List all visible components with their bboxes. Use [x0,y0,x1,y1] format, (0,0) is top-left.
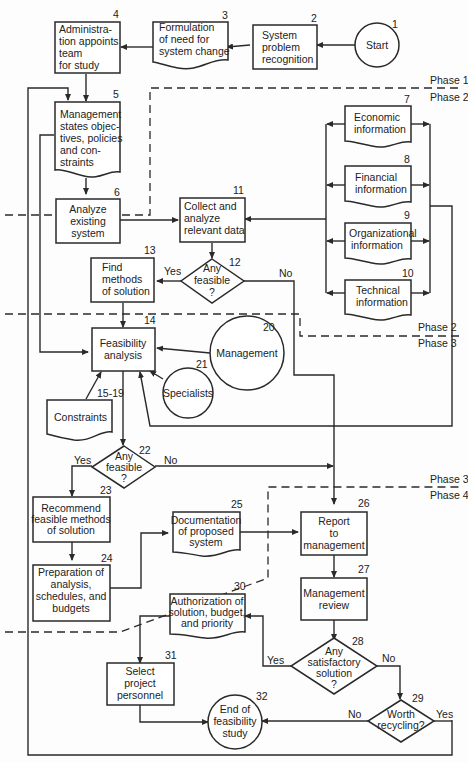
flowchart-canvas: Phase 1 Phase 2 Phase 2 Phase 3 Phase 3 … [0,0,468,763]
flowchart-svg: Phase 1 Phase 2 Phase 2 Phase 3 Phase 3 … [0,0,468,763]
node-number: 3 [222,9,228,21]
svg-text:budgets: budgets [52,602,89,614]
node-administration-appoints-team[interactable]: Administra- tion appoints team for study… [55,8,120,73]
edge-label-no: No [348,708,362,720]
svg-text:tives, policies: tives, policies [60,132,122,144]
node-number: 28 [352,635,364,647]
svg-text:Select: Select [125,665,154,677]
node-feasibility-analysis[interactable]: Feasibility analysis 14 [92,314,156,371]
phase-label: Phase 2 [430,91,468,103]
svg-text:Start: Start [366,39,388,51]
node-number: 29 [412,692,424,704]
node-documentation-proposed-system[interactable]: Documentation of proposed system 25 [171,498,243,556]
svg-text:existing: existing [70,215,106,227]
node-management-circle[interactable]: Management 20 [210,316,284,390]
svg-text:analysis: analysis [104,349,142,361]
svg-text:of need for: of need for [159,33,210,45]
svg-text:Feasibility: Feasibility [100,337,147,349]
svg-text:review: review [319,599,350,611]
edge-label-no: No [164,454,178,466]
svg-text:?: ? [209,286,215,298]
node-number: 20 [263,321,275,333]
node-authorization-of-solution[interactable]: Authorization of solution, budget, and p… [168,580,245,638]
svg-text:?: ? [121,472,127,484]
node-formulation-of-need[interactable]: Formulation of need for system change 3 [153,9,230,69]
svg-text:Management: Management [216,347,277,359]
svg-text:Collect and: Collect and [184,200,237,212]
svg-text:feasibility: feasibility [213,715,257,727]
svg-text:recognition: recognition [262,53,314,65]
edge-label-yes: Yes [267,654,284,666]
node-end-of-feasibility-study[interactable]: End of feasibility study 32 [208,690,268,749]
svg-text:study: study [222,727,248,739]
node-specialists[interactable]: Specialists 21 [163,358,213,418]
node-number: 10 [402,267,414,279]
svg-text:schedules, and: schedules, and [36,590,107,602]
svg-text:?: ? [331,678,337,690]
svg-text:relevant data: relevant data [184,224,245,236]
node-start[interactable]: Start 1 [355,18,399,67]
svg-text:Financial: Financial [355,171,397,183]
svg-text:straints: straints [60,156,94,168]
svg-text:for study: for study [59,59,100,71]
svg-text:system: system [71,227,105,239]
svg-text:information: information [356,296,408,308]
node-number: 22 [139,444,151,456]
phase-label: Phase 2 [418,321,457,333]
node-number: 32 [256,690,268,702]
node-number: 31 [165,649,177,661]
svg-text:Find: Find [102,261,123,273]
node-analyze-existing-system[interactable]: Analyze existing system 6 [56,186,120,243]
node-number: 14 [144,314,156,326]
decision-any-feasible-12[interactable]: Any feasible ? 12 Yes No [164,256,293,303]
node-number: 26 [358,497,370,509]
node-number: 30 [234,580,246,592]
svg-text:Management: Management [303,587,364,599]
node-number: 8 [404,153,410,165]
svg-text:Preparation of: Preparation of [38,566,104,578]
svg-text:Administra-: Administra- [59,23,113,35]
phase-label: Phase 1 [430,74,468,86]
node-number: 5 [113,88,119,100]
node-number: 11 [233,184,244,196]
decision-any-satisfactory-solution[interactable]: Any satisfactory solution ? 28 Yes No [267,635,396,694]
node-management-states-objectives[interactable]: Management states objec- tives, policies… [55,88,122,177]
node-organizational-information[interactable]: Organizational information 9 [345,209,417,264]
svg-text:Organizational: Organizational [349,227,417,239]
svg-text:information: information [354,123,406,135]
node-management-review[interactable]: Management review 27 [301,563,370,620]
node-number: 24 [101,552,113,564]
node-number: 2 [311,12,317,24]
svg-text:methods: methods [102,273,142,285]
svg-text:states objec-: states objec- [60,120,120,132]
svg-text:Any: Any [203,262,222,274]
svg-text:to: to [330,527,339,539]
node-preparation-of-analysis[interactable]: Preparation of analysis, schedules, and … [33,552,113,621]
svg-text:Economic: Economic [354,111,400,123]
phase-label: Phase 3 [418,337,457,349]
node-report-to-management[interactable]: Report to management 26 [301,497,370,555]
svg-text:Constraints: Constraints [54,411,107,423]
svg-text:feasible: feasible [194,274,230,286]
node-constraints[interactable]: Constraints 15-19 [47,387,124,440]
edge-label-yes: Yes [436,708,453,720]
node-number: 12 [229,256,241,268]
svg-text:management: management [303,539,364,551]
node-economic-information[interactable]: Economic information 7 [345,93,411,147]
edge-label-no: No [279,267,293,279]
node-find-methods-of-solution[interactable]: Find methods of solution 13 [91,244,156,302]
svg-text:System: System [262,29,297,41]
node-select-project-personnel[interactable]: Select project personnel 31 [107,649,177,705]
svg-text:system: system [189,536,223,548]
node-technical-information[interactable]: Technical information 10 [345,267,414,320]
svg-text:and priority: and priority [181,617,234,629]
node-financial-information[interactable]: Financial information 8 [345,153,411,207]
node-collect-analyze-data[interactable]: Collect and analyze relevant data 11 [180,184,245,242]
node-number: 27 [358,563,370,575]
svg-text:project: project [124,677,156,689]
node-system-problem-recognition[interactable]: System problem recognition 2 [253,12,317,69]
decision-worth-recycling[interactable]: Worth recycling? 29 No Yes [348,692,453,742]
svg-text:tion appoints: tion appoints [59,35,119,47]
svg-text:of solution: of solution [102,285,150,297]
node-number: 21 [196,358,208,370]
